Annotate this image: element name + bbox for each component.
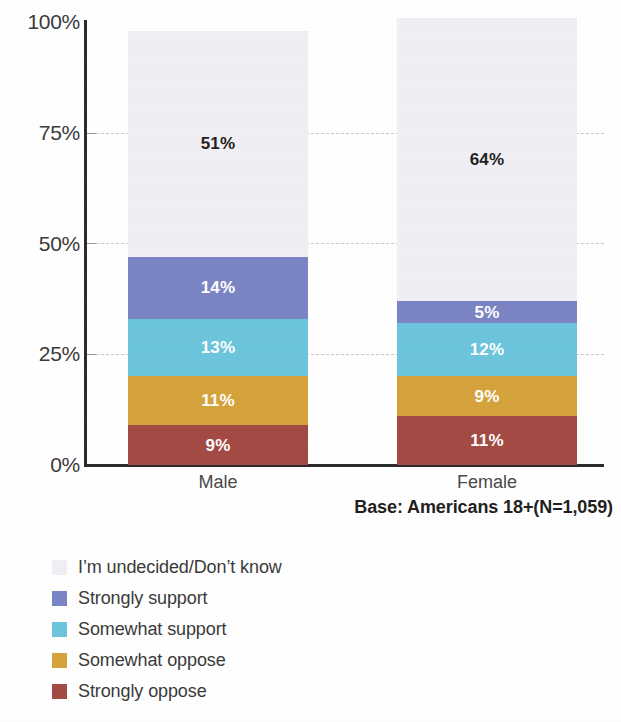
plot-area: 51% 14% 13% 11% 9% 64% 5% 12% [85,22,605,465]
base-note: Base: Americans 18+(N=1,059) [0,497,613,518]
chart-legend: I’m undecided/Don’t know Strongly suppor… [52,552,572,707]
bar-male-segment-undecided[interactable]: 51% [128,31,308,257]
legend-swatch-somewhat-support-icon [52,622,67,637]
legend-item-undecided[interactable]: I’m undecided/Don’t know [52,552,572,583]
legend-item-somewhat-support[interactable]: Somewhat support [52,614,572,645]
bar-female-segment-somewhat-support[interactable]: 12% [397,323,577,376]
legend-label-somewhat-oppose: Somewhat oppose [78,650,226,671]
legend-swatch-strongly-support-icon [52,591,67,606]
x-axis-label-male: Male [128,472,308,493]
bar-male-segment-somewhat-oppose[interactable]: 11% [128,376,308,425]
stacked-bar-chart: 100% 75% 50% 25% 0% 51% 14% 13% 11% [0,0,621,722]
bar-female[interactable]: 64% 5% 12% 9% 11% [397,18,577,465]
legend-label-somewhat-support: Somewhat support [78,619,226,640]
y-tick-label-0: 0% [2,453,80,477]
legend-item-strongly-oppose[interactable]: Strongly oppose [52,676,572,707]
bar-male-segment-somewhat-support[interactable]: 13% [128,319,308,377]
legend-label-strongly-support: Strongly support [78,588,207,609]
bar-female-label-somewhat-support: 12% [470,341,505,358]
bar-male-label-somewhat-support: 13% [201,339,236,356]
bar-male-segment-strongly-oppose[interactable]: 9% [128,425,308,465]
bar-female-label-undecided: 64% [470,151,505,168]
legend-swatch-strongly-oppose-icon [52,684,67,699]
bar-male-segment-strongly-support[interactable]: 14% [128,257,308,319]
legend-item-somewhat-oppose[interactable]: Somewhat oppose [52,645,572,676]
y-tick-label-75: 75% [2,121,80,145]
legend-label-undecided: I’m undecided/Don’t know [78,557,282,578]
y-tick-label-50: 50% [2,232,80,256]
bar-female-label-strongly-support: 5% [475,304,500,321]
bar-female-segment-undecided[interactable]: 64% [397,18,577,302]
bar-male-label-strongly-support: 14% [201,279,236,296]
bar-male-label-undecided: 51% [201,135,236,152]
bar-female-label-strongly-oppose: 11% [470,432,504,449]
bar-male-label-somewhat-oppose: 11% [201,392,235,409]
legend-label-strongly-oppose: Strongly oppose [78,681,207,702]
bar-male-label-strongly-oppose: 9% [206,437,231,454]
x-axis-label-female: Female [397,472,577,493]
legend-swatch-undecided-icon [52,560,67,575]
bar-female-segment-strongly-oppose[interactable]: 11% [397,416,577,465]
bar-female-segment-strongly-support[interactable]: 5% [397,301,577,323]
bar-female-segment-somewhat-oppose[interactable]: 9% [397,376,577,416]
y-tick-label-100: 100% [2,10,80,34]
legend-swatch-somewhat-oppose-icon [52,653,67,668]
legend-item-strongly-support[interactable]: Strongly support [52,583,572,614]
y-tick-label-25: 25% [2,342,80,366]
bar-male[interactable]: 51% 14% 13% 11% 9% [128,31,308,465]
bar-female-label-somewhat-oppose: 9% [475,388,500,405]
